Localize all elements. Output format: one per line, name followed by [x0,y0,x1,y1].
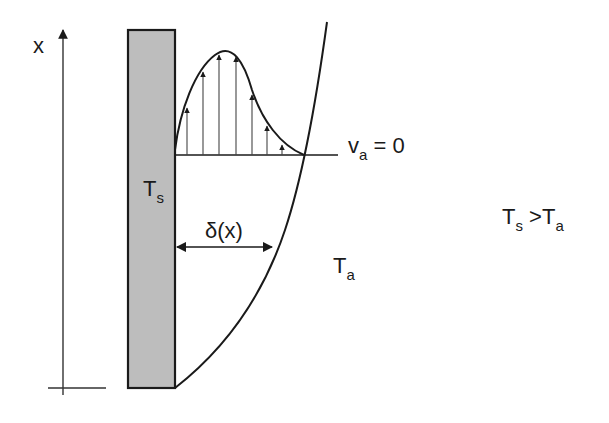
x-axis [48,30,106,395]
velocity-zero-label: va = 0 [348,133,405,163]
temperature-condition-label: Ts >Ta [502,204,564,234]
ambient-temperature-label: Ta [333,253,355,283]
thickness-label: δ(x) [205,218,243,243]
velocity-profile-curve [175,51,304,155]
x-axis-label: x [33,33,44,58]
heated-wall [128,30,175,388]
boundary-layer-diagram: x Ts va = 0 δ(x) Ta [0,0,609,423]
